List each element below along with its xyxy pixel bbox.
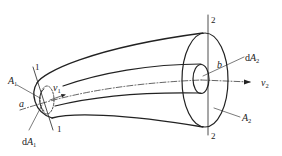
outer-tube-bottom-wall <box>52 115 203 127</box>
section-2-bottom-label: 2 <box>211 131 216 141</box>
d-area-2-ellipse <box>193 65 209 94</box>
velocity-2-arrowhead <box>244 80 251 85</box>
point-a-label: a <box>19 98 24 109</box>
area-1-label: A1 <box>7 75 17 87</box>
outer-tube-top-wall <box>37 33 203 83</box>
d-area-1-label: dA1 <box>22 136 36 148</box>
d-area-2-label: dA2 <box>245 52 259 64</box>
velocity-2-label: v2 <box>261 77 269 89</box>
d-area-1-leader <box>29 105 42 130</box>
point-b-label: b <box>217 59 222 70</box>
area-1-leader <box>17 85 40 98</box>
velocity-1-label: v1 <box>53 82 61 94</box>
area-2-leader <box>214 108 240 117</box>
section-2-top-label: 2 <box>211 15 216 25</box>
section-1-bottom-label: 1 <box>57 124 62 134</box>
d-area-2-leader <box>203 57 244 76</box>
streamline-centerline <box>20 80 201 110</box>
area-2-label: A2 <box>241 112 251 124</box>
section-1-top-label: 1 <box>35 62 40 72</box>
inner-tube-top-wall <box>63 64 201 86</box>
stream-tube-diagram: 1 1 2 2 A1 dA1 v1 a b dA2 v2 A2 <box>0 0 282 156</box>
